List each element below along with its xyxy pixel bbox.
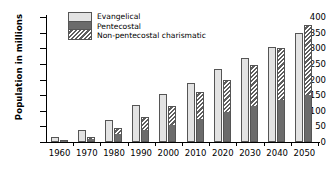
segment-pentecostal: [251, 106, 257, 141]
legend-label-evangelical: Evangelical: [97, 12, 206, 21]
bar-evangelical: [295, 33, 303, 142]
x-axis-tick: [155, 143, 156, 146]
x-axis-line: [46, 142, 320, 143]
bar-evangelical: [105, 120, 113, 142]
segment-pentecostal: [169, 125, 175, 141]
legend-swatch-stack: [68, 12, 92, 40]
bar-charismatic-stack: [223, 80, 231, 143]
bar-evangelical: [78, 130, 86, 143]
segment-non-pentecostal-charismatic: [278, 49, 284, 99]
y-axis-title: Population in millions: [14, 7, 24, 127]
x-axis-tick: [209, 143, 210, 146]
bar-evangelical: [51, 137, 59, 142]
segment-pentecostal: [115, 134, 121, 141]
segment-non-pentecostal-charismatic: [142, 118, 148, 130]
bar-evangelical: [132, 105, 140, 143]
bar-charismatic-stack: [60, 140, 68, 143]
legend-swatch-non-pentecostal-charismatic: [69, 30, 91, 39]
segment-pentecostal: [278, 100, 284, 141]
segment-pentecostal: [224, 112, 230, 141]
bar-charismatic-stack: [141, 117, 149, 142]
x-axis-tick: [264, 143, 265, 146]
segment-pentecostal: [142, 130, 148, 142]
segment-non-pentecostal-charismatic: [251, 66, 257, 106]
segment-pentecostal: [197, 119, 203, 142]
bar-evangelical: [187, 83, 195, 142]
bar-evangelical: [241, 58, 249, 142]
segment-non-pentecostal-charismatic: [305, 26, 311, 95]
segment-non-pentecostal-charismatic: [169, 107, 175, 125]
legend-label-non-pentecostal-charismatic: Non-pentecostal charismatic: [97, 31, 206, 40]
x-axis-tick: [236, 143, 237, 146]
bar-charismatic-stack: [304, 25, 312, 142]
bar-evangelical: [159, 94, 167, 142]
bar-charismatic-stack: [196, 92, 204, 142]
x-axis-tick-label: 2050: [284, 148, 324, 158]
segment-pentecostal: [88, 139, 94, 141]
x-axis-tick: [128, 143, 129, 146]
legend-labels: Evangelical Pentecostal Non-pentecostal …: [97, 12, 206, 40]
legend-label-pentecostal: Pentecostal: [97, 22, 206, 31]
bar-charismatic-stack: [114, 128, 122, 142]
legend-swatch-evangelical: [69, 13, 91, 22]
bar-evangelical: [268, 47, 276, 142]
x-axis-tick: [318, 143, 319, 146]
bar-charismatic-stack: [250, 65, 258, 142]
bar-evangelical: [214, 69, 222, 142]
bar-charismatic-stack: [168, 106, 176, 142]
x-axis-tick: [291, 143, 292, 146]
legend-swatch-pentecostal: [69, 22, 91, 31]
legend: Evangelical Pentecostal Non-pentecostal …: [68, 12, 206, 40]
segment-pentecostal: [305, 95, 311, 141]
x-axis-tick: [73, 143, 74, 146]
bar-charismatic-stack: [87, 137, 95, 142]
segment-non-pentecostal-charismatic: [224, 81, 230, 113]
bar-charismatic-stack: [277, 48, 285, 142]
x-axis-tick: [100, 143, 101, 146]
segment-non-pentecostal-charismatic: [197, 93, 203, 119]
bar-chart: Population in millions 05010015020025030…: [0, 0, 326, 170]
x-axis-tick: [182, 143, 183, 146]
